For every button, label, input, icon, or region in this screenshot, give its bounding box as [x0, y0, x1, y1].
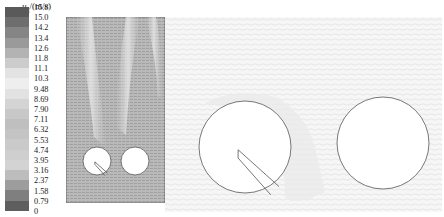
- colorbar-tick-label: 7.90: [34, 105, 49, 114]
- colorbar-tick-label: 0.79: [34, 197, 49, 206]
- colorbar-segment: [5, 48, 29, 58]
- colorbar-tick-label: 13.4: [34, 34, 49, 43]
- colorbar-tick-label: 9.48: [34, 85, 49, 94]
- colorbar-segment: [5, 58, 29, 68]
- colorbar-tick-label: 0: [34, 207, 38, 216]
- colorbar-tick-label: 6.32: [34, 125, 49, 134]
- cylinder: [337, 97, 429, 189]
- colorbar: [5, 7, 29, 211]
- colorbar-tick-label: 8.69: [34, 95, 49, 104]
- colorbar-tick-label: 2.37: [34, 176, 49, 185]
- colorbar-segment: [5, 119, 29, 129]
- colorbar-segment: [5, 7, 29, 17]
- colorbar-tick-label: 5.53: [34, 136, 49, 145]
- colorbar-tick-label: 14.2: [34, 23, 49, 32]
- velocity-field-panel-left: [66, 17, 165, 203]
- cylinder: [121, 147, 149, 175]
- colorbar-tick-label: 1.58: [34, 187, 49, 196]
- colorbar-tick-label: 3.95: [34, 156, 49, 165]
- colorbar-tick-label: 15.8: [34, 3, 49, 12]
- colorbar-segment: [5, 78, 29, 88]
- colorbar-segment: [5, 129, 29, 139]
- colorbar-tick-label: 3.16: [34, 166, 49, 175]
- colorbar-tick-label: 10.3: [34, 74, 49, 83]
- colorbar-tick-label: 15.0: [34, 13, 49, 22]
- colorbar-segment: [5, 27, 29, 37]
- colorbar-segment: [5, 89, 29, 99]
- colorbar-segment: [5, 180, 29, 190]
- colorbar-segment: [5, 190, 29, 200]
- colorbar-segment: [5, 38, 29, 48]
- velocity-field-panel-right: [165, 17, 442, 212]
- cylinder: [199, 101, 291, 193]
- cylinder: [83, 147, 111, 175]
- velocity-field-left-svg: [66, 17, 165, 203]
- colorbar-segment: [5, 201, 29, 211]
- colorbar-segment: [5, 170, 29, 180]
- colorbar-segment: [5, 139, 29, 149]
- colorbar-segment: [5, 109, 29, 119]
- colorbar-segment: [5, 150, 29, 160]
- colorbar-tick-label: 12.6: [34, 44, 49, 53]
- colorbar-segment: [5, 68, 29, 78]
- velocity-field-right-svg: [165, 17, 442, 212]
- colorbar-segment: [5, 17, 29, 27]
- colorbar-tick-label: 11.8: [34, 54, 48, 63]
- colorbar-tick-label: 11.1: [34, 64, 48, 73]
- colorbar-tick-label: 7.11: [34, 115, 48, 124]
- colorbar-segment: [5, 99, 29, 109]
- colorbar-segment: [5, 160, 29, 170]
- colorbar-tick-label: 4.74: [34, 146, 49, 155]
